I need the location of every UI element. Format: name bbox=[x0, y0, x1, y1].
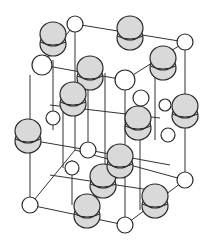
crystal-lattice-diagram bbox=[0, 0, 210, 245]
small-atom bbox=[67, 16, 83, 32]
large-atoms bbox=[15, 16, 198, 228]
large-atom bbox=[15, 119, 41, 153]
large-atom bbox=[40, 22, 66, 56]
large-atom bbox=[142, 184, 168, 218]
small-atom bbox=[65, 161, 79, 175]
small-atom bbox=[80, 142, 96, 158]
small-atom bbox=[117, 217, 133, 233]
large-atom bbox=[150, 46, 176, 80]
small-atom bbox=[159, 99, 171, 111]
small-atom bbox=[46, 111, 60, 125]
small-atom bbox=[177, 172, 193, 188]
large-atom bbox=[60, 82, 86, 116]
large-atom bbox=[107, 144, 133, 178]
small-atom bbox=[161, 128, 175, 142]
large-atom bbox=[172, 94, 198, 128]
large-atom bbox=[74, 194, 100, 228]
small-atom bbox=[133, 90, 149, 106]
large-atom bbox=[125, 106, 151, 140]
small-atom bbox=[177, 34, 193, 50]
small-atom bbox=[115, 70, 135, 90]
small-atom bbox=[32, 55, 52, 75]
small-atom bbox=[22, 197, 38, 213]
large-atom bbox=[117, 16, 143, 50]
